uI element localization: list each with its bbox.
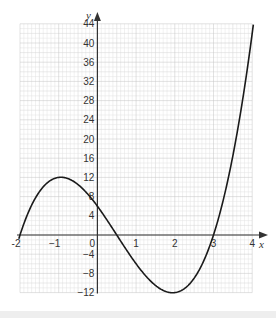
y-tick-label: 12 (83, 172, 95, 183)
y-tick-label: 20 (83, 134, 95, 145)
y-tick-label: 24 (83, 114, 95, 125)
cubic-graph: -2−101234−12−8−448121620242832364044 x y (0, 0, 276, 311)
y-tick-label: 40 (83, 38, 95, 49)
y-tick-label: 16 (83, 153, 95, 164)
footer-bar (0, 311, 276, 318)
y-axis-label: y (85, 9, 91, 21)
x-tick-label: 1 (133, 238, 139, 249)
y-tick-label: 32 (83, 76, 95, 87)
y-tick-label: −12 (77, 287, 94, 298)
y-tick-label: −8 (83, 268, 95, 279)
x-tick-label: -2 (12, 238, 21, 249)
x-tick-label: −1 (49, 238, 61, 249)
y-tick-label: 28 (83, 95, 95, 106)
x-tick-label: 4 (249, 238, 255, 249)
x-tick-label: 0 (90, 238, 96, 249)
y-tick-label: 4 (89, 210, 95, 221)
y-tick-label: −4 (83, 249, 95, 260)
x-axis-label: x (258, 238, 264, 250)
y-tick-label: 36 (83, 57, 95, 68)
x-tick-label: 2 (172, 238, 178, 249)
